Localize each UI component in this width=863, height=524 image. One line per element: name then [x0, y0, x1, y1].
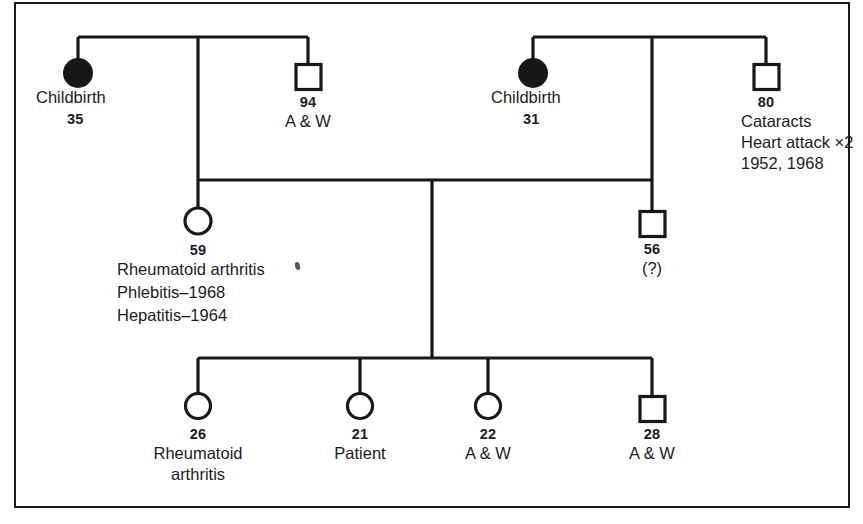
symbol-g1-maternal-grandfather-square: [296, 65, 321, 90]
age-g3-sibling-3: 22: [480, 425, 497, 444]
caption-g3-sibling-1-line-2: arthritis: [171, 465, 225, 484]
symbol-g1-paternal-grandfather-square: [754, 65, 779, 90]
age-g1-paternal-grandfather: 80: [758, 93, 775, 112]
age-g1-maternal-grandfather: 94: [300, 93, 317, 112]
symbol-g3-sibling-1-circle: [186, 394, 211, 419]
age-g2-father: 56: [644, 240, 661, 259]
caption-g3-sibling-3: A & W: [465, 444, 511, 463]
caption-g1-paternal-grandfather-line-3: 1952, 1968: [741, 154, 824, 173]
age-g3-sibling-4: 28: [644, 425, 661, 444]
symbol-g2-father-square: [640, 212, 665, 237]
age-g1-paternal-grandmother: 31: [523, 110, 540, 129]
age-g3-sibling-1: 26: [190, 425, 207, 444]
symbol-g1-paternal-grandmother-circle-filled: [520, 60, 547, 87]
caption-g3-proband: Patient: [334, 444, 385, 463]
caption-g2-mother-line-3: Hepatitis–1964: [117, 306, 227, 325]
symbol-g3-sibling-3-circle: [476, 394, 501, 419]
caption-g1-paternal-grandfather-line-2: Heart attack ×2: [741, 133, 853, 152]
caption-g1-paternal-grandfather-line-1: Cataracts: [741, 112, 812, 131]
symbol-g3-proband-circle: [348, 394, 373, 419]
caption-g3-sibling-4: A & W: [629, 444, 675, 463]
caption-g1-maternal-grandmother: Childbirth: [36, 88, 106, 107]
symbol-g2-mother-circle: [185, 208, 211, 234]
symbol-g3-sibling-4-square: [640, 397, 665, 422]
caption-g1-maternal-grandfather: A & W: [285, 112, 331, 131]
age-g1-maternal-grandmother: 35: [67, 110, 84, 129]
age-g2-mother: 59: [190, 241, 207, 260]
pedigree-chart-figure: Childbirth 35 94 A & W Childbirth 31 80 …: [0, 0, 863, 524]
caption-g2-father: (?): [642, 259, 662, 278]
caption-g2-mother-line-1: Rheumatoid arthritis: [117, 260, 265, 279]
age-g3-proband: 21: [352, 425, 369, 444]
caption-g3-sibling-1-line-1: Rheumatoid: [154, 444, 243, 463]
symbol-g1-maternal-grandmother-circle-filled: [65, 60, 92, 87]
caption-g1-paternal-grandmother: Childbirth: [491, 88, 561, 107]
caption-g2-mother-line-2: Phlebitis–1968: [117, 283, 225, 302]
